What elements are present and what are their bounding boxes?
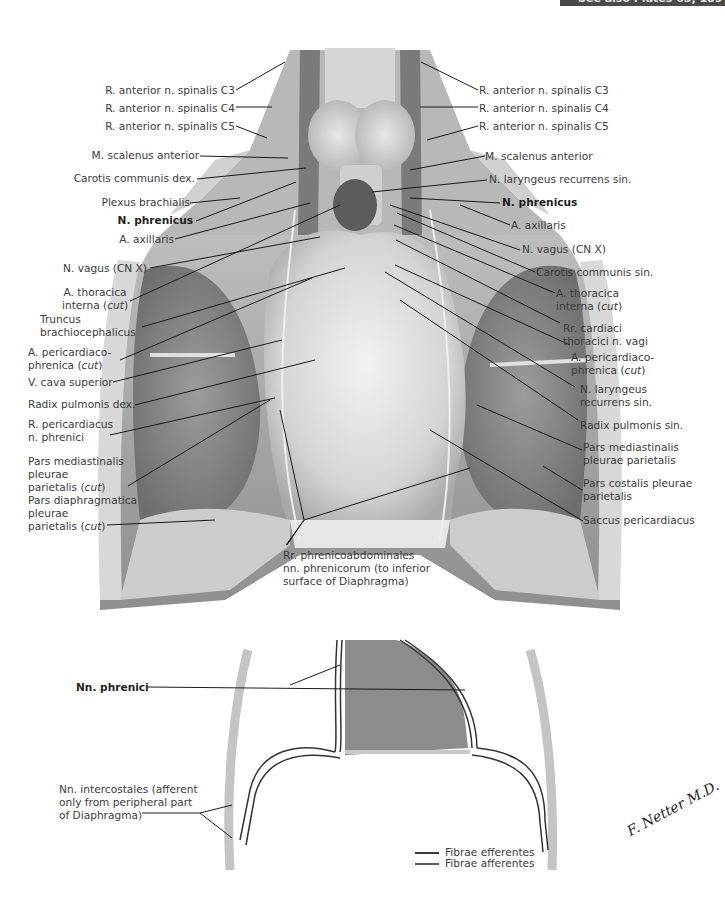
label-plexus-brachialis: Plexus brachialis xyxy=(102,196,191,209)
label-n-laryngeus-recurrens-lower: N. laryngeus recurrens sin. xyxy=(580,383,652,409)
label-left-c3: R. anterior n. spinalis C3 xyxy=(105,84,235,97)
label-pars-mediastinalis-left: Pars mediastinalis pleurae parietalis (c… xyxy=(28,455,124,494)
efferent-swatch xyxy=(415,852,439,854)
label-left-c4: R. anterior n. spinalis C4 xyxy=(105,102,235,115)
label-nn-intercostales: Nn. intercostales (afferent only from pe… xyxy=(59,783,198,822)
label-truncus-brachiocephalicus: Truncus brachiocephalicus xyxy=(40,313,136,339)
label-saccus-pericardiacus: Saccus pericardiacus xyxy=(583,514,695,527)
label-n-laryngeus-recurrens-top: N. laryngeus recurrens sin. xyxy=(489,173,631,186)
label-n-vagus-right: N. vagus (CN X) xyxy=(522,243,606,256)
label-pars-diaphragmatica: Pars diaphragmatica pleurae parietalis (… xyxy=(28,494,137,533)
label-nn-phrenici: Nn. phrenici xyxy=(76,681,149,694)
label-v-cava-superior: V. cava superior xyxy=(28,376,113,389)
label-a-thoracica-interna-right: A. thoracica interna (cut) xyxy=(556,287,622,313)
label-scalenus-anterior-right: M. scalenus anterior xyxy=(485,150,593,163)
label-left-c5: R. anterior n. spinalis C5 xyxy=(105,120,235,133)
label-n-phrenicus-left: N. phrenicus xyxy=(118,214,193,227)
label-scalenus-anterior-left: M. scalenus anterior xyxy=(92,149,200,162)
label-carotis-communis-sin: Carotis communis sin. xyxy=(536,266,653,279)
legend-item-afferent: Fibrae afferentes xyxy=(415,858,535,869)
label-pars-mediastinalis-right: Pars mediastinalis pleurae parietalis xyxy=(583,441,679,467)
label-right-c3: R. anterior n. spinalis C3 xyxy=(479,84,609,97)
diaphragm-schematic xyxy=(229,640,553,870)
label-rr-phrenicoabdominales: Rr. phrenicoabdominales nn. phrenicorum … xyxy=(283,549,430,588)
label-right-c5: R. anterior n. spinalis C5 xyxy=(479,120,609,133)
label-radix-pulmonis-sin: Radix pulmonis sin. xyxy=(580,419,683,432)
label-n-vagus-left: N. vagus (CN X) xyxy=(63,262,147,275)
afferent-swatch xyxy=(415,863,439,865)
label-n-phrenicus-right: N. phrenicus xyxy=(502,196,577,209)
label-right-c4: R. anterior n. spinalis C4 xyxy=(479,102,609,115)
label-a-pericardiacophrenica-left: A. pericardiaco- phrenica (cut) xyxy=(28,346,111,372)
label-radix-pulmonis-dex: Radix pulmonis dex. xyxy=(28,398,135,411)
label-a-axillaris-left: A. axillaris xyxy=(119,233,174,246)
label-a-axillaris-right: A. axillaris xyxy=(511,219,566,232)
label-r-pericardiacus-n-phrenici: R. pericardiacus n. phrenici xyxy=(28,418,113,444)
label-a-pericardiacophrenica-right: A. pericardiaco- phrenica (cut) xyxy=(571,351,654,377)
label-pars-costalis: Pars costalis pleurae parietalis xyxy=(583,477,692,503)
label-rr-cardiaci-thoracici: Rr. cardiaci thoracici n. vagi xyxy=(563,322,648,348)
fiber-legend: Fibrae efferentes Fibrae afferentes xyxy=(415,847,535,869)
label-carotis-communis-dex: Carotis communis dex. xyxy=(74,172,195,185)
label-a-thoracica-interna-left: A. thoracica interna (cut) xyxy=(62,286,128,312)
